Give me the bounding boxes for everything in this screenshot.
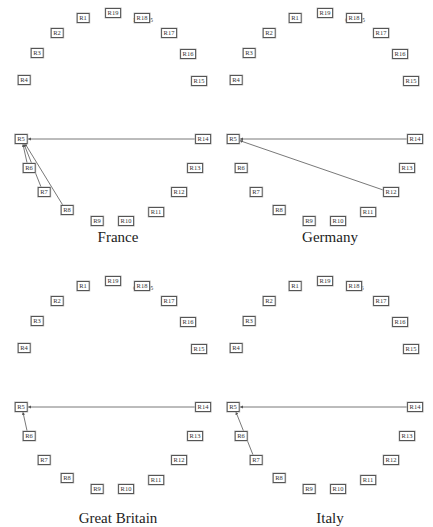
country-title: Great Britain <box>79 510 158 527</box>
node-r9: R9 <box>91 484 104 494</box>
node-r15: R15 <box>403 76 419 86</box>
node-r6: R6 <box>23 431 36 441</box>
node-r9: R9 <box>91 216 104 226</box>
node-r19: R19 <box>317 8 333 18</box>
network-panel-ger005: GER005R1R2R3R4R5R6R7R8R9R10R11R12R13R14R… <box>212 0 428 256</box>
node-r14: R14 <box>195 134 211 144</box>
node-r13: R13 <box>187 163 203 173</box>
node-r16: R16 <box>392 317 408 327</box>
node-r6: R6 <box>235 163 248 173</box>
node-r11: R11 <box>360 207 376 217</box>
node-r5: R5 <box>227 402 240 412</box>
node-r8: R8 <box>273 473 286 483</box>
node-r13: R13 <box>187 431 203 441</box>
node-r10: R10 <box>330 484 346 494</box>
node-r3: R3 <box>243 48 256 58</box>
node-r8: R8 <box>273 205 286 215</box>
node-r15: R15 <box>191 344 207 354</box>
node-r5: R5 <box>15 402 28 412</box>
node-r1: R1 <box>77 13 90 23</box>
node-r6: R6 <box>235 431 248 441</box>
node-r2: R2 <box>263 296 276 306</box>
node-r18: R18 <box>134 281 150 291</box>
node-r8: R8 <box>61 205 74 215</box>
node-r12: R12 <box>171 455 187 465</box>
node-r9: R9 <box>303 484 316 494</box>
node-r10: R10 <box>118 484 134 494</box>
node-r14: R14 <box>407 402 423 412</box>
node-r3: R3 <box>31 316 44 326</box>
node-r14: R14 <box>195 402 211 412</box>
edge-layer <box>212 268 428 524</box>
node-r1: R1 <box>289 13 302 23</box>
node-r14: R14 <box>407 134 423 144</box>
node-r9: R9 <box>303 216 316 226</box>
node-r18: R18 <box>346 13 362 23</box>
node-r18: R18 <box>346 281 362 291</box>
node-r4: R4 <box>230 343 243 353</box>
network-panel-fra005: FRA005R1R2R3R4R5R6R7R8R9R10R11R12R13R14R… <box>0 0 216 256</box>
node-r16: R16 <box>180 49 196 59</box>
country-title: Italy <box>316 510 344 527</box>
country-title: Germany <box>302 229 358 246</box>
node-r16: R16 <box>180 317 196 327</box>
node-r1: R1 <box>289 281 302 291</box>
node-r19: R19 <box>317 276 333 286</box>
node-r17: R17 <box>373 296 389 306</box>
node-r17: R17 <box>161 296 177 306</box>
node-r5: R5 <box>227 134 240 144</box>
node-r12: R12 <box>383 455 399 465</box>
node-r15: R15 <box>191 76 207 86</box>
node-r10: R10 <box>330 216 346 226</box>
node-r13: R13 <box>399 163 415 173</box>
node-r3: R3 <box>243 316 256 326</box>
node-r12: R12 <box>383 187 399 197</box>
node-r7: R7 <box>250 455 263 465</box>
node-r3: R3 <box>31 48 44 58</box>
node-r11: R11 <box>148 475 164 485</box>
node-r12: R12 <box>171 187 187 197</box>
node-r19: R19 <box>105 8 121 18</box>
node-r7: R7 <box>38 455 51 465</box>
country-title: France <box>98 229 139 246</box>
edge-layer <box>212 0 428 256</box>
node-r4: R4 <box>230 75 243 85</box>
node-r8: R8 <box>61 473 74 483</box>
node-r4: R4 <box>18 343 31 353</box>
node-r4: R4 <box>18 75 31 85</box>
network-panel-ita005: ITA005R1R2R3R4R5R6R7R8R9R10R11R12R13R14R… <box>212 268 428 524</box>
edge-layer <box>0 0 216 256</box>
node-r5: R5 <box>15 134 28 144</box>
node-r18: R18 <box>134 13 150 23</box>
node-r2: R2 <box>51 28 64 38</box>
node-r1: R1 <box>77 281 90 291</box>
edge-r6-to-r5 <box>23 412 27 431</box>
node-r6: R6 <box>23 163 36 173</box>
node-r13: R13 <box>399 431 415 441</box>
node-r17: R17 <box>373 28 389 38</box>
node-r11: R11 <box>360 475 376 485</box>
node-r16: R16 <box>392 49 408 59</box>
node-r2: R2 <box>51 296 64 306</box>
node-r19: R19 <box>105 276 121 286</box>
node-r17: R17 <box>161 28 177 38</box>
node-r2: R2 <box>263 28 276 38</box>
edge-r12-to-r5 <box>240 141 385 191</box>
node-r10: R10 <box>118 216 134 226</box>
edge-layer <box>0 268 216 524</box>
node-r7: R7 <box>38 187 51 197</box>
node-r7: R7 <box>250 187 263 197</box>
network-panel-gbr005: GBR005R1R2R3R4R5R6R7R8R9R10R11R12R13R14R… <box>0 268 216 524</box>
node-r11: R11 <box>148 207 164 217</box>
node-r15: R15 <box>403 344 419 354</box>
